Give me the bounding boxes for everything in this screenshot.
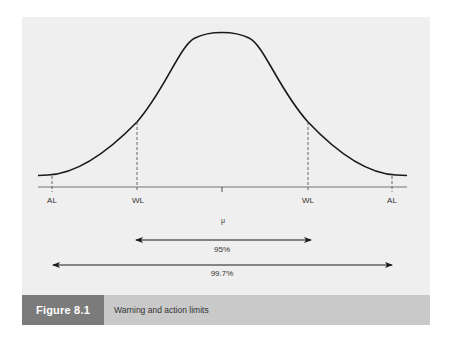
normal-curve-diagram: [0, 0, 452, 344]
mean-label: μ: [221, 217, 225, 224]
range-label-95: 95%: [214, 245, 230, 254]
axis-label-al-left: AL: [47, 196, 57, 205]
figure-title: Warning and action limits: [114, 295, 209, 325]
axis-label-al-right: AL: [387, 196, 397, 205]
axis-label-wl-right: WL: [302, 196, 314, 205]
range-label-99-7: 99.7%: [211, 269, 234, 278]
figure-caption: Figure 8.1 Warning and action limits: [22, 295, 430, 325]
figure-number: Figure 8.1: [22, 295, 104, 325]
axis-label-wl-left: WL: [132, 196, 144, 205]
bell-curve: [38, 33, 407, 176]
